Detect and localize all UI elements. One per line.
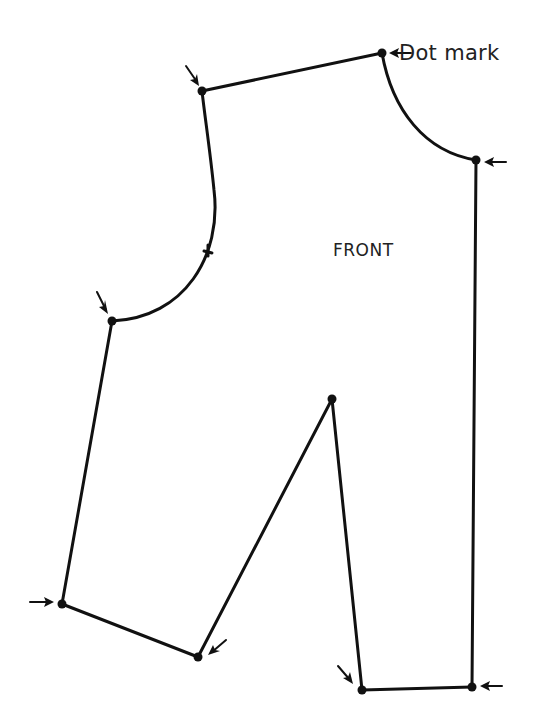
arrow-icon-neck-right (484, 157, 506, 167)
center-front-line (472, 160, 476, 687)
neckline-curve (382, 53, 476, 160)
hem-left-line (62, 604, 198, 657)
dot-mark-neck-right (472, 156, 481, 165)
shoulder-seam (202, 53, 382, 91)
dot-mark-armhole-bottom (108, 317, 117, 326)
dot-mark-hem-right (468, 683, 477, 692)
hem-right-line (362, 687, 472, 690)
arrow-icon-crotch-left (208, 640, 226, 655)
arrow-icon-hem-left (30, 597, 54, 607)
inner-leg-right (332, 399, 362, 690)
arrow-icon-armhole-bottom (97, 292, 108, 314)
pattern-piece-diagram (0, 0, 551, 727)
dot-mark-hem-left (58, 600, 67, 609)
dot-mark-callout-label: Dot mark (399, 41, 499, 65)
dot-mark-neck-top (378, 49, 387, 58)
inner-leg-left (198, 399, 332, 657)
arrow-icon-hem-right (480, 681, 502, 691)
dot-mark-dart-tip (328, 395, 337, 404)
armhole-curve (112, 91, 215, 321)
arrow-icon-shoulder-left (186, 66, 199, 86)
dot-mark-shoulder-left (198, 87, 207, 96)
dot-mark-crotch-right (358, 686, 367, 695)
arrow-icon-crotch-right (338, 666, 353, 684)
pattern-piece-label: FRONT (333, 240, 394, 260)
dot-mark-crotch-left (194, 653, 203, 662)
side-seam (62, 321, 112, 604)
